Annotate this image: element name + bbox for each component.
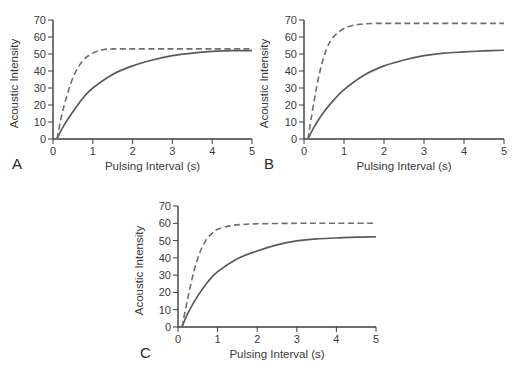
- y-tick-label: 0: [165, 321, 171, 333]
- y-tick-label: 40: [34, 65, 46, 77]
- y-tick-label: 60: [159, 217, 171, 229]
- x-tick-label: 2: [381, 145, 387, 157]
- y-tick-label: 50: [34, 48, 46, 60]
- x-tick-label: 4: [333, 333, 339, 345]
- y-tick-label: 70: [285, 14, 297, 26]
- panel-label: B: [264, 155, 274, 172]
- x-tick-label: 5: [249, 145, 255, 157]
- x-tick-label: 0: [175, 333, 181, 345]
- x-tick-label: 1: [341, 145, 347, 157]
- chart-panel-a: 010203040506070012345Pulsing Interval (s…: [8, 14, 255, 172]
- x-tick-label: 4: [461, 145, 467, 157]
- y-tick-label: 30: [34, 82, 46, 94]
- figure-three-panel-charts: 010203040506070012345Pulsing Interval (s…: [0, 0, 521, 368]
- panel-label: A: [12, 155, 22, 172]
- y-tick-label: 60: [34, 31, 46, 43]
- panel-label: C: [140, 344, 151, 361]
- x-tick-label: 0: [301, 145, 307, 157]
- y-tick-label: 30: [159, 269, 171, 281]
- y-tick-label: 10: [285, 116, 297, 128]
- y-axis-title: Acoustic Intensity: [258, 39, 270, 129]
- x-tick-label: 0: [50, 145, 56, 157]
- axes: 010203040506070012345: [159, 200, 379, 345]
- x-tick-label: 1: [90, 145, 96, 157]
- y-tick-label: 30: [285, 82, 297, 94]
- x-tick-label: 2: [130, 145, 136, 157]
- y-tick-label: 70: [159, 200, 171, 212]
- y-tick-label: 10: [159, 304, 171, 316]
- chart-panel-b: 010203040506070012345Pulsing Interval (s…: [258, 14, 507, 172]
- x-axis-title: Pulsing Interval (s): [105, 160, 200, 172]
- y-tick-label: 20: [34, 99, 46, 111]
- x-axis-title: Pulsing Interval (s): [229, 348, 324, 360]
- solid-curve: [308, 50, 504, 139]
- y-tick-label: 20: [285, 99, 297, 111]
- y-tick-label: 40: [159, 252, 171, 264]
- x-axis-title: Pulsing Interval (s): [356, 160, 451, 172]
- solid-curve: [57, 51, 252, 139]
- dashed-curve: [182, 223, 376, 327]
- x-tick-label: 4: [209, 145, 215, 157]
- y-tick-label: 20: [159, 286, 171, 298]
- axes: 010203040506070012345: [285, 14, 507, 157]
- y-axis-title: Acoustic Intensity: [133, 226, 145, 316]
- x-tick-label: 3: [169, 145, 175, 157]
- y-tick-label: 0: [40, 133, 46, 145]
- y-tick-label: 40: [285, 65, 297, 77]
- x-tick-label: 3: [421, 145, 427, 157]
- axes: 010203040506070012345: [34, 14, 255, 157]
- x-tick-label: 3: [294, 333, 300, 345]
- x-tick-label: 2: [254, 333, 260, 345]
- y-axis-title: Acoustic Intensity: [8, 39, 20, 129]
- solid-curve: [182, 237, 376, 327]
- dashed-curve: [308, 23, 504, 139]
- x-tick-label: 1: [215, 333, 221, 345]
- y-tick-label: 50: [285, 48, 297, 60]
- chart-panel-c: 010203040506070012345Pulsing Interval (s…: [133, 200, 379, 361]
- y-tick-label: 70: [34, 14, 46, 26]
- x-tick-label: 5: [501, 145, 507, 157]
- y-tick-label: 0: [291, 133, 297, 145]
- y-tick-label: 60: [285, 31, 297, 43]
- y-tick-label: 50: [159, 235, 171, 247]
- x-tick-label: 5: [373, 333, 379, 345]
- y-tick-label: 10: [34, 116, 46, 128]
